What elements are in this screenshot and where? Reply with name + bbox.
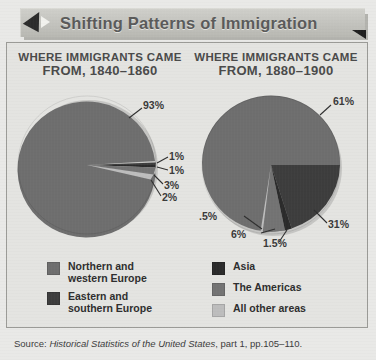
chart-1840-1860: Where immigrants came from, 1840–1860 — [11, 51, 189, 261]
chart-2-label-1-5: 1.5% — [263, 237, 287, 249]
chart-1-label-3: 3% — [164, 179, 179, 191]
legend-swatch-asia — [212, 262, 225, 275]
page-title: Shifting Patterns of Immigration — [60, 8, 360, 38]
legend: Northern and western Europe Eastern and … — [7, 261, 369, 323]
triangle-highlight-icon — [41, 16, 50, 28]
legend-label-asia: Asia — [233, 261, 255, 273]
chart-2-label-61: 61% — [333, 95, 354, 107]
legend-label-all-other-areas: All other areas — [233, 303, 306, 315]
legend-label-northern-western-europe: Northern and western Europe — [68, 261, 147, 284]
title-banner: Shifting Patterns of Immigration — [0, 0, 376, 46]
source-suffix: , part 1, pp.105–110. — [215, 338, 302, 349]
chart-2-title: Where immigrants came from, 1880–1900 — [187, 51, 365, 77]
legend-swatch-the-americas — [212, 283, 225, 296]
legend-group-europe: Northern and western Europe Eastern and … — [47, 261, 152, 321]
chart-2-label-31: 31% — [328, 218, 349, 230]
legend-label-eastern-southern-europe: Eastern and southern Europe — [68, 291, 152, 314]
chart-1-label-2: 2% — [162, 191, 177, 203]
legend-label-the-americas: The Americas — [233, 282, 301, 294]
chart-1-label-1a: 1% — [169, 150, 184, 162]
chart-2-title-line2: from, 1880–1900 — [187, 64, 365, 77]
page-fold-icon — [352, 30, 366, 39]
source-title: Historical Statistics of the United Stat… — [49, 338, 215, 349]
chart-1-label-1b: 1% — [169, 164, 184, 176]
chart-2-label-05: .5% — [199, 210, 217, 222]
legend-group-other: Asia The Americas All other areas — [212, 261, 306, 324]
source-citation: Source: Historical Statistics of the Uni… — [14, 338, 364, 349]
chart-2-pie-area: 61% 31% 1.5% 6% .5% — [187, 77, 365, 249]
legend-swatch-northern-western-europe — [47, 262, 60, 275]
legend-item-asia: Asia — [212, 261, 306, 275]
chart-2-label-6: 6% — [231, 228, 246, 240]
source-prefix: Source: — [14, 338, 49, 349]
legend-swatch-all-other-areas — [212, 304, 225, 317]
infographic-panel: Where immigrants came from, 1840–1860 — [6, 42, 368, 328]
chart-1880-1900: Where immigrants came from, 1880–1900 — [187, 51, 365, 261]
legend-item-the-americas: The Americas — [212, 282, 306, 296]
chart-1-title-line2: from, 1840–1860 — [11, 64, 189, 77]
chart-1-pie-area: 93% 1% 1% 3% 2% — [11, 77, 189, 249]
legend-swatch-eastern-southern-europe — [47, 292, 60, 305]
chart-1-label-93: 93% — [143, 99, 164, 111]
chart-1-title: Where immigrants came from, 1840–1860 — [11, 51, 189, 77]
legend-item-northern-western-europe: Northern and western Europe — [47, 261, 152, 284]
legend-item-eastern-southern-europe: Eastern and southern Europe — [47, 291, 152, 314]
legend-item-all-other-areas: All other areas — [212, 303, 306, 317]
